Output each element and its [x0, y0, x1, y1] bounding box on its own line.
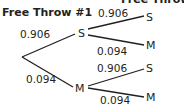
prob-S-M: 0.094 — [97, 45, 127, 57]
header-free-throw-2: Free Throw #2 — [121, 0, 184, 6]
node-level1-M: M — [75, 82, 85, 95]
node-level1-S: S — [78, 27, 85, 40]
prob-root-M: 0.094 — [26, 73, 56, 85]
node-level2-M-M: M — [146, 91, 156, 104]
node-level2-S-M: M — [146, 39, 156, 52]
prob-S-S: 0.906 — [98, 7, 128, 19]
node-level2-M-S: S — [146, 62, 153, 75]
node-level2-S-S: S — [146, 11, 153, 24]
prob-M-M: 0.094 — [100, 94, 130, 106]
prob-root-S: 0.906 — [20, 28, 50, 40]
prob-M-S: 0.906 — [97, 62, 127, 74]
header-free-throw-1: Free Throw #1 — [2, 6, 92, 19]
probability-tree-diagram: Free Throw #2 Free Throw #1 0.906 0.094 … — [0, 0, 184, 108]
edge-S-to-M — [88, 35, 144, 45]
